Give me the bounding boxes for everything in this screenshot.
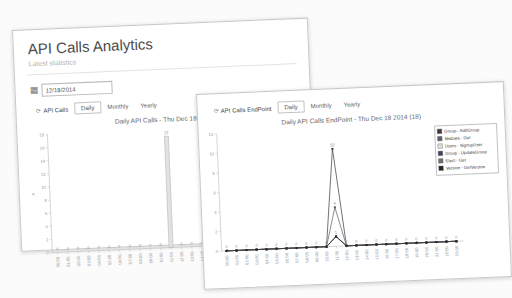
tab-api-calls-endpoint[interactable]: ⟳API Calls EndPoint: [207, 102, 277, 116]
zero-label: 0: [315, 241, 317, 245]
x-tick-label: 08:00: [304, 251, 309, 262]
zero-label: 0: [445, 236, 447, 240]
x-tick-label: 06:00: [284, 252, 289, 263]
point-marker: [395, 243, 397, 245]
y-tick-label: 12: [41, 172, 47, 177]
x-tick-label: 04:00: [264, 253, 269, 264]
point-marker: [375, 244, 377, 246]
zero-label: 0: [285, 243, 287, 247]
zero-label: 0: [235, 245, 237, 249]
zero-label: 0: [265, 243, 267, 247]
x-tick-label: 00:00: [224, 255, 229, 266]
x-tick-label: 11:00: [169, 251, 174, 262]
y-tick-label: 8: [44, 198, 47, 203]
calendar-icon[interactable]: ▦: [29, 86, 38, 95]
tab-monthly[interactable]: Monthly: [101, 101, 134, 112]
y-tick-label: 10: [41, 185, 47, 190]
x-tick-label: 15:00: [374, 248, 379, 259]
tab-daily[interactable]: Daily: [277, 100, 305, 113]
point-marker: [445, 241, 447, 243]
x-tick-label: 09:00: [148, 252, 153, 263]
y-tick-label: 2: [46, 237, 49, 242]
y-tick-label: 6: [213, 190, 216, 195]
tab-api-calls[interactable]: ⟳API Calls: [30, 103, 74, 116]
tab-monthly[interactable]: Monthly: [304, 100, 337, 111]
x-tick-label: 12:00: [344, 250, 349, 261]
point-marker: [266, 248, 268, 250]
y-tick-label: 12: [208, 132, 214, 137]
x-tick-label: 01:00: [234, 254, 239, 265]
point-marker: [455, 240, 457, 242]
x-tick-label: 03:00: [254, 253, 259, 264]
zero-label: 0: [56, 247, 58, 251]
daily-api-calls-endpoint-line-chart: 02468101200:0001:0002:0003:0004:0005:000…: [206, 117, 504, 279]
point-marker: [435, 241, 437, 243]
point-marker: [246, 249, 248, 251]
zero-label: 0: [190, 242, 192, 246]
x-tick-label: 21:00: [434, 246, 439, 257]
x-tick-label: 05:00: [107, 254, 112, 265]
point-marker: [334, 206, 336, 208]
y-tick-label: 16: [40, 145, 46, 150]
zero-label: 0: [435, 236, 437, 240]
series-line: [223, 144, 457, 251]
zero-label: 0: [425, 237, 427, 241]
point-marker: [385, 243, 387, 245]
point-marker: [276, 248, 278, 250]
legend-label: Elect - Get: [445, 157, 466, 163]
y-tick-label: 0: [46, 250, 49, 255]
point-marker: [331, 148, 333, 150]
y-tick-label: 0: [216, 249, 219, 254]
zero-label: 0: [67, 247, 69, 251]
zero-label: 0: [375, 239, 377, 243]
x-tick-label: 10:00: [158, 252, 163, 263]
refresh-icon: ⟳: [36, 107, 41, 113]
point-marker: [305, 246, 307, 248]
x-tick-label: 19:00: [414, 247, 419, 258]
date-input[interactable]: [41, 81, 112, 97]
point-marker: [226, 250, 228, 252]
legend-swatch: [438, 159, 443, 164]
zero-label: 0: [139, 244, 141, 248]
point-marker: [345, 245, 347, 247]
point-value-label: 4: [333, 201, 336, 206]
legend-swatch: [437, 129, 442, 134]
zero-label: 0: [355, 240, 357, 244]
x-tick-label: 11:00: [334, 250, 339, 261]
point-marker: [355, 244, 357, 246]
zero-label: 0: [87, 246, 89, 250]
y-axis-label: #: [31, 192, 36, 195]
point-value-label: 10: [330, 142, 336, 147]
point-marker: [415, 242, 417, 244]
tab-yearly[interactable]: Yearly: [134, 100, 163, 111]
point-marker: [295, 247, 297, 249]
point-marker: [335, 235, 337, 237]
y-tick-label: 2: [215, 229, 218, 234]
tab-daily[interactable]: Daily: [74, 101, 102, 114]
zero-label: 0: [245, 244, 247, 248]
x-tick-label: 08:00: [138, 253, 143, 264]
x-tick-label: 22:00: [444, 245, 449, 256]
legend: Group - AddGroupMeData - GetUsers - Sign…: [435, 123, 499, 175]
point-marker: [405, 242, 407, 244]
zero-label: 0: [149, 243, 151, 247]
x-tick-label: 01:00: [65, 256, 70, 267]
zero-label: 0: [365, 239, 367, 243]
x-tick-label: 09:00: [314, 251, 319, 262]
tab-yearly[interactable]: Yearly: [337, 99, 366, 110]
y-tick-label: 4: [45, 224, 48, 229]
refresh-icon: ⟳: [214, 108, 219, 114]
x-tick-label: 20:00: [424, 246, 429, 257]
y-tick-label: 18: [39, 132, 45, 137]
y-tick-label: 6: [45, 211, 48, 216]
point-marker: [236, 249, 238, 251]
zero-label: 0: [77, 246, 79, 250]
endpoint-window: ⟳API Calls EndPoint Daily Monthly Yearly…: [196, 81, 512, 290]
x-tick-label: 12:00: [179, 251, 184, 262]
y-axis: [47, 135, 52, 253]
point-marker: [425, 241, 427, 243]
zero-label: 0: [305, 242, 307, 246]
bar-value-label: 17: [164, 130, 170, 135]
series-line: [225, 202, 456, 251]
x-tick-label: 18:00: [404, 247, 409, 258]
